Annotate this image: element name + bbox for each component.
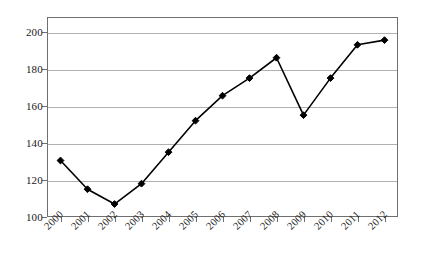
y-tick-label: 160 — [26, 100, 43, 112]
y-tick-label: 140 — [26, 137, 43, 149]
gridline — [48, 33, 397, 34]
line-chart: 100120140160180200 200020012002200320042… — [0, 0, 422, 269]
gridline — [48, 107, 397, 108]
y-tick-label: 200 — [26, 26, 43, 38]
y-tick-label: 180 — [26, 63, 43, 75]
gridline — [48, 70, 397, 71]
x-tick-label: 2000 — [42, 209, 65, 232]
y-tick-label: 100 — [26, 211, 43, 223]
y-tick-label: 120 — [26, 174, 43, 186]
plot-area — [47, 17, 398, 217]
gridline — [48, 181, 397, 182]
gridline — [48, 144, 397, 145]
